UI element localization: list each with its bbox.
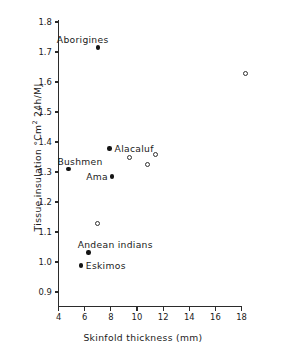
y-axis-tick <box>55 51 59 52</box>
data-point-label: Alacaluf <box>115 143 154 154</box>
x-axis-tick <box>241 307 242 311</box>
y-axis-tick <box>55 201 59 202</box>
x-axis-tick <box>136 307 137 311</box>
y-axis-tick <box>55 21 59 22</box>
y-axis-tick <box>55 291 59 292</box>
x-axis-tick <box>163 307 164 311</box>
x-axis-tick <box>58 307 59 311</box>
y-axis-tick <box>55 231 59 232</box>
x-axis-tick-label: 6 <box>75 312 95 322</box>
x-axis-title: Skinfold thickness (mm) <box>0 332 286 343</box>
data-point-label: Andean indians <box>78 239 153 250</box>
data-point-open <box>243 71 248 76</box>
data-point-label: Aborigines <box>57 34 109 45</box>
x-axis-tick-label: 10 <box>127 312 147 322</box>
x-axis-tick-label: 18 <box>232 312 252 322</box>
x-axis-tick <box>110 307 111 311</box>
x-axis-tick <box>215 307 216 311</box>
data-point-label: Eskimos <box>86 260 126 271</box>
data-point-open <box>127 155 132 160</box>
y-axis-tick <box>55 171 59 172</box>
data-point-filled <box>66 167 70 171</box>
data-point-open <box>95 221 100 226</box>
x-axis-tick-label: 4 <box>49 312 69 322</box>
x-axis-tick-label: 14 <box>179 312 199 322</box>
y-axis-title: Tissue insulation °Cm2 24h/MJ <box>32 50 43 265</box>
x-axis-tick <box>84 307 85 311</box>
data-point-filled <box>96 45 100 49</box>
y-axis-tick-label: 0.9 <box>28 287 52 297</box>
y-axis-tick-label: 1.8 <box>28 17 52 27</box>
y-axis-tick <box>55 141 59 142</box>
data-point-filled <box>110 174 114 178</box>
scatter-plot-figure: 1.81.71.61.51.41.31.21.11.00.9 468101214… <box>0 0 286 359</box>
data-point-label: Bushmen <box>57 156 102 167</box>
x-axis-tick-label: 8 <box>101 312 121 322</box>
x-axis-tick-label: 12 <box>153 312 173 322</box>
data-point-open <box>145 162 150 167</box>
x-axis-tick <box>189 307 190 311</box>
data-point-filled <box>86 250 90 254</box>
x-axis-tick-label: 16 <box>205 312 225 322</box>
data-point-filled <box>107 146 111 150</box>
y-axis-tick <box>55 81 59 82</box>
data-point-label: Ama <box>86 171 108 182</box>
y-axis-tick <box>55 111 59 112</box>
data-point-filled <box>79 263 83 267</box>
y-axis-tick <box>55 261 59 262</box>
